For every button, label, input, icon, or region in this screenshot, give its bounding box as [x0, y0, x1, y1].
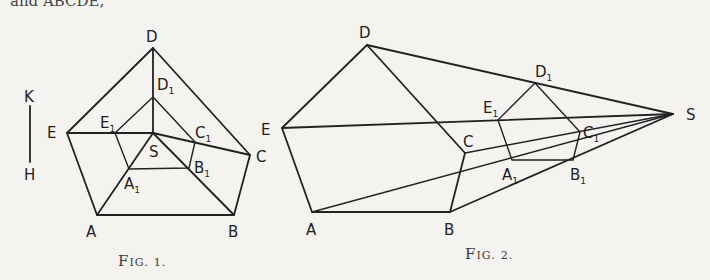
label-c1: C1	[583, 124, 599, 144]
label-c: C	[463, 133, 473, 151]
label-a1: A1	[502, 166, 518, 186]
ray-d-s	[367, 45, 673, 114]
label-d: D	[359, 24, 371, 42]
label-b1: B1	[194, 159, 210, 179]
label-c1: C1	[195, 124, 211, 144]
label-e1: E1	[483, 99, 498, 119]
top-text-fragment: and ABCDE,	[10, 0, 104, 10]
geometry-diagram: and ABCDE, K H D D1 E E1 S C1 C B1 A1 A …	[0, 0, 710, 280]
outer-pentagon-abcde	[67, 48, 250, 215]
label-b: B	[444, 221, 454, 239]
label-e1: E1	[100, 114, 115, 134]
label-b1: B1	[570, 166, 586, 186]
label-d: D	[146, 28, 158, 46]
label-e: E	[261, 121, 270, 139]
ray-a-s	[312, 114, 673, 212]
label-s: S	[149, 143, 159, 161]
label-a1: A1	[124, 175, 140, 195]
caption-fig-2: FIG.2.	[465, 245, 513, 263]
label-e: E	[47, 124, 56, 142]
label-b: B	[228, 223, 238, 241]
caption-fig-1: FIG.1.	[118, 252, 166, 270]
label-k: K	[24, 88, 35, 106]
figure-1: K H D D1 E E1 S C1 C B1 A1 A B FIG.1.	[24, 28, 266, 270]
label-d1: D1	[535, 63, 552, 83]
ray-b-s	[450, 114, 673, 212]
ray-e-s	[282, 114, 673, 128]
label-d1: D1	[157, 76, 174, 96]
label-a: A	[306, 221, 317, 239]
label-a: A	[86, 223, 97, 241]
outer-pentagon-abcde	[282, 45, 465, 212]
inner-pentagon-a1b1c1d1e1	[498, 83, 580, 160]
label-c: C	[256, 148, 266, 166]
label-s: S	[686, 106, 696, 124]
figure-2: D D1 E E1 C C1 A1 B1 A B S FIG.2.	[261, 24, 696, 263]
label-h: H	[24, 166, 35, 184]
ray-s-a	[97, 133, 153, 215]
book-page: and ABCDE, K H D D1 E E1 S C1 C B1 A1 A …	[0, 0, 710, 280]
